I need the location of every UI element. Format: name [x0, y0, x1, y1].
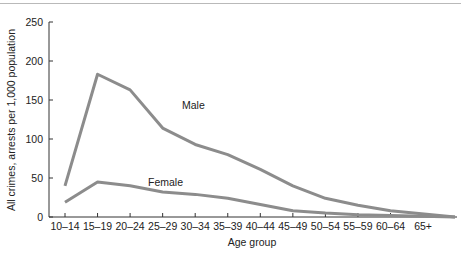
x-axis-title: Age group [228, 236, 277, 248]
x-tick-label: 10–14 [50, 220, 79, 232]
y-tick-label: 50 [31, 172, 43, 184]
y-axis-title: All crimes, arrests per 1,000 population [5, 29, 17, 211]
x-tick-label: 20–24 [115, 220, 144, 232]
x-tick-label: 15–19 [83, 220, 112, 232]
x-tick-label: 45–49 [278, 220, 307, 232]
series-lines [65, 74, 455, 217]
y-tick-label: 150 [25, 94, 43, 106]
y-tick-label: 250 [25, 16, 43, 28]
x-tick-label: 30–34 [181, 220, 210, 232]
y-tick-label: 0 [37, 211, 43, 223]
x-tick-label: 65+ [414, 220, 432, 232]
x-tick-label: 55–59 [343, 220, 372, 232]
x-tick-label: 25–29 [148, 220, 177, 232]
series-label-female: Female [148, 176, 183, 188]
y-tick-label: 100 [25, 133, 43, 145]
x-tick-label: 60–64 [376, 220, 405, 232]
x-tick-label: 35–39 [213, 220, 242, 232]
series-line-male [65, 74, 455, 217]
x-tick-label: 40–44 [246, 220, 275, 232]
series-label-male: Male [182, 99, 205, 111]
x-tick-label: 50–54 [311, 220, 340, 232]
y-tick-label: 200 [25, 55, 43, 67]
y-axis: 050100150200250 [25, 16, 53, 223]
line-chart: 050100150200250 10–1415–1920–2425–2930–3… [0, 0, 461, 255]
